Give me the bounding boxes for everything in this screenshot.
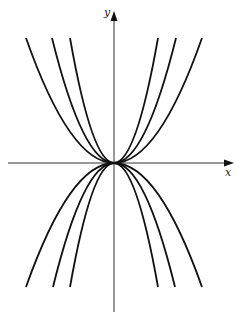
x-axis-label: x [225, 166, 231, 179]
y-axis-label: y [104, 6, 110, 19]
y-axis-arrow-icon [111, 11, 118, 21]
parabola-family-diagram [0, 0, 239, 322]
